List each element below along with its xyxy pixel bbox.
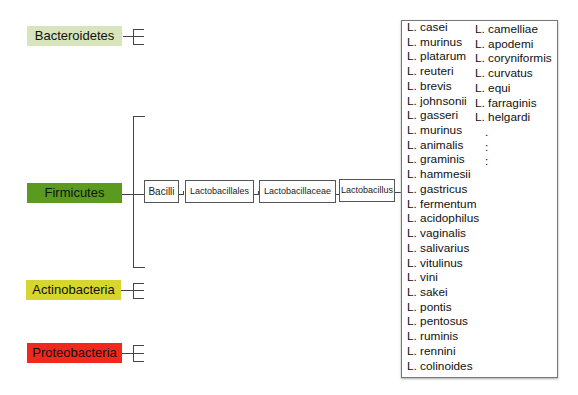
species-item: L. apodemi xyxy=(475,37,552,52)
ellipsis: : xyxy=(475,154,552,169)
bracket xyxy=(133,44,144,45)
species-item: L. pontis xyxy=(407,300,479,315)
species-item: L. acidophilus xyxy=(407,211,479,226)
species-item: L. vaginalis xyxy=(407,226,479,241)
species-item: L. murinus xyxy=(407,35,479,50)
bracket xyxy=(133,116,134,268)
bracket xyxy=(133,361,144,362)
species-column-1: L. casei L. murinus L. platarum L. reute… xyxy=(407,20,479,373)
species-item: L. helgardi xyxy=(475,110,552,125)
species-item: L. rennini xyxy=(407,344,479,359)
bracket xyxy=(133,29,134,45)
bracket xyxy=(133,298,144,299)
phylum-bacteroidetes: Bacteroidetes xyxy=(27,26,122,46)
species-item: L. murinus xyxy=(407,123,479,138)
node-lactobacillus: Lactobacillus xyxy=(339,179,395,202)
species-item: L. coryniformis xyxy=(475,51,552,66)
species-item: L. ruminis xyxy=(407,329,479,344)
species-item: L. animalis xyxy=(407,138,479,153)
species-item: L. farraginis xyxy=(475,96,552,111)
species-item: L. platarum xyxy=(407,49,479,64)
species-item: L. hammesii xyxy=(407,167,479,182)
species-item: L. gasseri xyxy=(407,108,479,123)
node-bacilli: Bacilli xyxy=(144,180,179,203)
species-list-box: L. casei L. murinus L. platarum L. reute… xyxy=(401,20,558,378)
connector xyxy=(133,194,144,195)
species-item: L. pentosus xyxy=(407,314,479,329)
connector xyxy=(121,290,133,291)
species-item: L. camelliae xyxy=(475,22,552,37)
species-item: L. equi xyxy=(475,81,552,96)
species-item: L. colinoides xyxy=(407,359,479,374)
bracket xyxy=(133,29,144,30)
ellipsis: : xyxy=(475,140,552,155)
ellipsis: . xyxy=(475,125,552,140)
bracket xyxy=(133,116,145,117)
species-column-2: L. camelliae L. apodemi L. coryniformis … xyxy=(475,22,552,169)
species-item: L. vitulinus xyxy=(407,256,479,271)
bracket xyxy=(133,353,144,354)
connector xyxy=(183,191,184,195)
bracket xyxy=(133,290,144,291)
phylum-firmicutes: Firmicutes xyxy=(27,183,122,203)
bracket xyxy=(133,283,134,299)
node-lactobacillales: Lactobacillales xyxy=(185,180,254,203)
species-item: L. sakei xyxy=(407,285,479,300)
phylum-actinobacteria: Actinobacteria xyxy=(26,280,121,300)
bracket xyxy=(133,267,145,268)
bracket xyxy=(133,345,144,346)
phylum-proteobacteria: Proteobacteria xyxy=(27,343,122,363)
species-item: L. brevis xyxy=(407,79,479,94)
species-item: L. salivarius xyxy=(407,241,479,256)
species-item: L. fermentum xyxy=(407,197,479,212)
species-item: L. graminis xyxy=(407,152,479,167)
bracket xyxy=(133,283,144,284)
species-item: L. johnsonii xyxy=(407,94,479,109)
species-item: L. vini xyxy=(407,270,479,285)
bracket xyxy=(133,36,144,37)
species-item: L. reuteri xyxy=(407,64,479,79)
node-lactobacillaceae: Lactobacillaceae xyxy=(259,180,336,203)
species-item: L. casei xyxy=(407,20,479,35)
species-item: L. curvatus xyxy=(475,66,552,81)
species-item: L. gastricus xyxy=(407,182,479,197)
connector xyxy=(123,36,133,37)
